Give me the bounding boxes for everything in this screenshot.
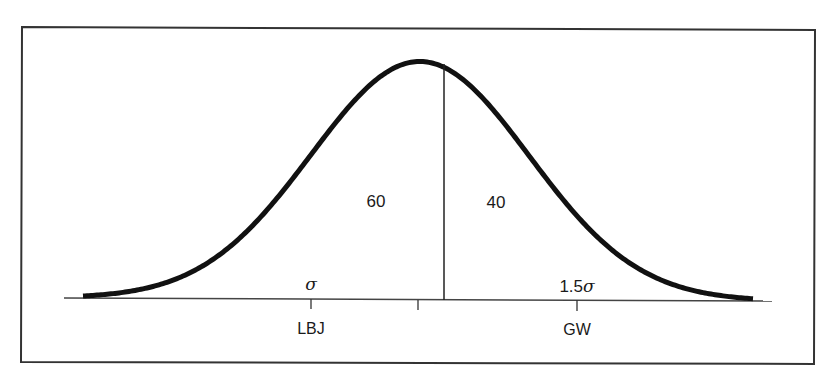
right-area-label: 40 [487,193,506,212]
gw-label: GW [563,321,591,338]
normal-curve-diagram: 60 40 σ 1.5σ LBJ GW [0,0,834,383]
frame-border [21,27,815,364]
left-area-label: 60 [367,192,386,211]
bell-curve [83,62,753,299]
gw-sigma-multiplier: 1.5 [559,277,583,296]
gw-sigma-symbol: σ [583,276,595,296]
gw-sigma-label: 1.5σ [559,276,595,296]
lbj-label: LBJ [297,320,325,337]
lbj-sigma-label: σ [305,274,317,294]
